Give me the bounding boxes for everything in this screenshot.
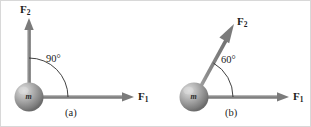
panel-a-mass-label: m (26, 92, 32, 101)
panel-a-label-f1: F1 (138, 90, 148, 104)
panel-a-caption: (a) (65, 107, 77, 118)
panel-b-caption: (b) (225, 107, 237, 118)
panel-b-mass-label: m (191, 92, 197, 101)
panel-a-graphics (15, 18, 135, 112)
panel-b-angle-arc (214, 63, 234, 97)
panel-b-label-f2: F2 (237, 15, 247, 29)
figure-canvas (1, 1, 311, 127)
panel-a-vector-f1-arrow (29, 92, 134, 101)
panel-b-label-f1: F1 (293, 90, 303, 104)
panel-b-angle-label: 60° (221, 54, 236, 65)
panel-a-label-f2: F2 (20, 3, 30, 17)
panel-a-angle-label: 90° (46, 53, 61, 64)
physics-figure: F2 F1 90° m (a) F2 F1 60° m (b) (0, 0, 311, 127)
